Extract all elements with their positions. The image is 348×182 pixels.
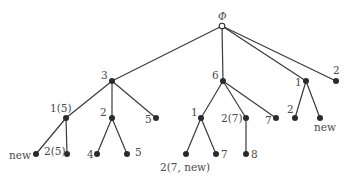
tree-node: [109, 78, 115, 84]
tree-edge: [186, 118, 201, 154]
tree-edge: [112, 118, 127, 154]
tree-edge: [306, 81, 320, 118]
tree-node: [213, 151, 219, 157]
tree-node: [273, 115, 279, 121]
node-label: 1: [191, 106, 198, 118]
tree-node: [33, 151, 39, 157]
tree-node: [183, 151, 189, 157]
tree-node: [243, 151, 249, 157]
node-label: 6: [212, 69, 219, 81]
tree-nodes: [33, 23, 339, 157]
node-label: 7: [221, 148, 228, 160]
tree-node: [220, 78, 226, 84]
tree-edge: [112, 26, 222, 81]
tree-edge: [201, 118, 216, 154]
tree-node: [153, 115, 159, 121]
node-label: 5: [135, 146, 142, 158]
root-node: [219, 23, 225, 29]
node-label: 2(7, new): [160, 161, 210, 173]
node-label: 5: [145, 113, 152, 125]
root-label: Φ: [218, 10, 227, 22]
node-label: 8: [251, 148, 258, 160]
tree-edge: [222, 26, 336, 81]
tree-node: [109, 115, 115, 121]
tree-node: [124, 151, 130, 157]
node-label: 2: [333, 64, 340, 76]
tree-node: [333, 78, 339, 84]
tree-node: [243, 115, 249, 121]
tree-edges: [36, 26, 336, 154]
tree-node: [94, 151, 100, 157]
tree-edge: [66, 118, 67, 154]
tree-node: [292, 115, 298, 121]
node-label: 3: [101, 69, 108, 81]
node-label: 7: [265, 114, 272, 126]
tree-node: [198, 115, 204, 121]
node-label: 1: [295, 76, 302, 88]
node-label: new: [9, 149, 31, 161]
tree-edge: [222, 26, 306, 81]
node-label: 2(5): [44, 145, 66, 157]
tree-edge: [222, 26, 223, 81]
tree-node: [303, 78, 309, 84]
tree-edge: [201, 81, 223, 118]
tree-labels: Φ36121(5)2512(7)72newnew2(5)452(7, new)7…: [9, 10, 340, 173]
node-label: 4: [87, 148, 94, 160]
tree-edge: [97, 118, 112, 154]
node-label: 2: [287, 103, 294, 115]
tree-diagram: Φ36121(5)2512(7)72newnew2(5)452(7, new)7…: [0, 0, 348, 182]
node-label: 2: [100, 106, 107, 118]
node-label: 2(7): [221, 112, 243, 124]
node-label: new: [314, 121, 336, 133]
tree-node: [63, 115, 69, 121]
node-label: 1(5): [50, 102, 72, 114]
